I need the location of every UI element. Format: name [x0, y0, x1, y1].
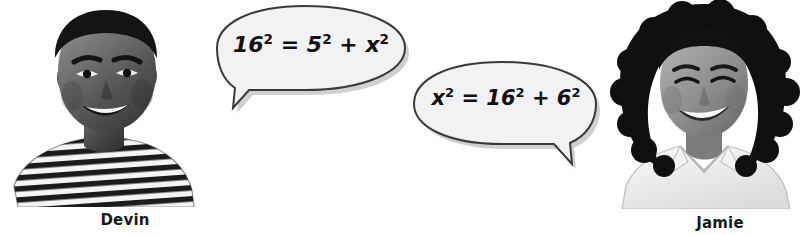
speech-bubble-devin-shape	[205, 2, 417, 114]
devin-right-pupil	[123, 69, 131, 77]
eq-op-1: =	[281, 32, 299, 57]
eq-op-1: =	[461, 86, 479, 110]
eq-op-2: +	[532, 86, 550, 110]
equation-jamie: x2 = 162 + 62	[406, 86, 606, 110]
speech-bubble-jamie: x2 = 162 + 62	[406, 58, 606, 170]
eq-exp-2: 2	[516, 85, 525, 100]
eq-term-3: 6	[557, 86, 572, 110]
eq-term-2: 16	[486, 86, 515, 110]
eq-exp-1: 2	[445, 85, 454, 100]
eq-exp-3: 2	[380, 31, 389, 47]
devin-left-pupil	[83, 70, 91, 78]
caption-jamie: Jamie	[640, 214, 800, 232]
speech-bubble-devin: 162 = 52 + x2	[205, 2, 417, 114]
caption-devin: Devin	[45, 211, 205, 229]
portrait-jamie	[600, 0, 808, 209]
illustration-scene: Devin	[0, 0, 808, 235]
eq-op-2: +	[339, 32, 357, 57]
eq-term-3: x	[365, 32, 379, 57]
eq-term-1: 16	[233, 32, 264, 57]
speech-bubble-jamie-shape	[406, 58, 606, 170]
portrait-devin	[0, 0, 212, 207]
eq-term-1: x	[431, 86, 445, 110]
eq-exp-2: 2	[322, 31, 331, 47]
eq-exp-3: 2	[571, 85, 580, 100]
devin-photo-graphic	[0, 0, 212, 207]
eq-exp-1: 2	[264, 31, 273, 47]
equation-devin: 162 = 52 + x2	[205, 32, 417, 57]
eq-term-2: 5	[307, 32, 322, 57]
jamie-photo-graphic	[600, 0, 808, 209]
